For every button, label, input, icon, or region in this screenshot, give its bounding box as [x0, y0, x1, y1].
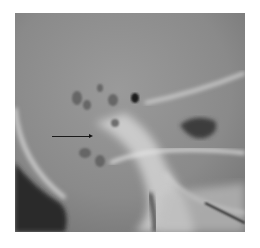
xray-image [15, 13, 245, 232]
xray-graphic [15, 13, 245, 232]
annotation-arrow-shaft [52, 136, 91, 137]
annotation-arrow-icon [89, 134, 93, 138]
